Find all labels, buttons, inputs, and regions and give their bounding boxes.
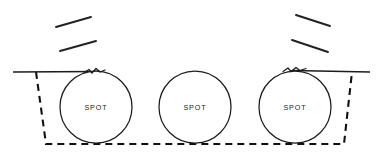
spot-label-center: SPOT [183,103,206,112]
slash-right-lower-icon [292,40,328,52]
spot-label-left: SPOT [84,103,107,112]
hatch-slash-group-left [56,17,96,51]
diagram-canvas: SPOT SPOT SPOT [0,0,379,156]
slash-left-upper-icon [56,17,91,27]
spot-label-right: SPOT [283,103,306,112]
hatch-slash-group-right [292,15,330,52]
slash-right-upper-icon [296,15,330,26]
slash-left-lower-icon [60,41,96,51]
spot-diagram: SPOT SPOT SPOT [0,0,379,156]
